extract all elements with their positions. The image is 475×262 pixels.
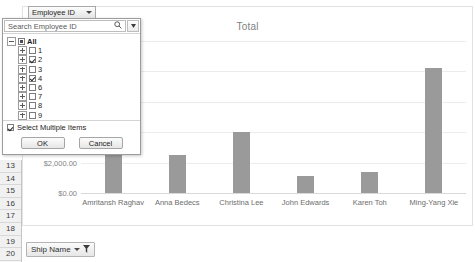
chevron-down-icon	[74, 248, 80, 251]
x-axis-tick-label: Christina Lee	[219, 198, 263, 207]
filter-tree-item[interactable]: 7	[7, 92, 140, 101]
funnel-icon	[83, 245, 90, 255]
y-axis-tick-label: $2,000.00	[44, 158, 77, 167]
row-header-gutter: 1314151617181920	[0, 160, 22, 262]
expand-icon[interactable]	[18, 74, 27, 83]
filter-item-checkbox[interactable]	[29, 84, 36, 91]
filter-item-checkbox[interactable]	[29, 56, 36, 63]
row-header[interactable]: 18	[0, 223, 21, 236]
filter-item-label: 3	[38, 65, 42, 74]
bar-slot: Anna Bedecs	[145, 41, 209, 193]
row-header[interactable]: 15	[0, 185, 21, 198]
x-axis-tick-label: John Edwards	[282, 198, 330, 207]
bar-slot: Christina Lee	[209, 41, 273, 193]
chart-bar[interactable]	[297, 176, 314, 193]
search-dropdown-button[interactable]	[127, 20, 139, 32]
row-header[interactable]: 16	[0, 198, 21, 211]
filter-item-checkbox[interactable]	[29, 47, 36, 54]
spreadsheet-window: Total $0.00$2,000.00$4,000.00$6,000.00 A…	[0, 0, 475, 262]
expand-icon[interactable]	[18, 111, 27, 120]
filter-tree-item[interactable]: 8	[7, 101, 140, 110]
magnifier-icon[interactable]	[114, 21, 122, 31]
filter-item-checkbox[interactable]	[29, 93, 36, 100]
x-axis-tick-label: Ming-Yang Xie	[410, 198, 459, 207]
bar-slot: Ming-Yang Xie	[402, 41, 466, 193]
filter-item-checkbox[interactable]	[29, 112, 36, 119]
chart-bar[interactable]	[233, 132, 250, 193]
row-header[interactable]: 13	[0, 160, 21, 173]
x-axis-tick-label: Karen Toh	[353, 198, 387, 207]
filter-item-checkbox[interactable]	[18, 38, 25, 45]
select-multiple-label: Select Multiple Items	[17, 123, 86, 132]
expand-icon[interactable]	[18, 92, 27, 101]
row-header[interactable]: 20	[0, 248, 21, 261]
search-input-placeholder: Search Employee ID	[8, 22, 77, 31]
bar-slot: John Edwards	[274, 41, 338, 193]
filter-tree-item[interactable]: 2	[7, 55, 140, 64]
row-header[interactable]: 19	[0, 236, 21, 249]
expand-icon[interactable]	[18, 65, 27, 74]
column-header-label: Employee ID	[32, 8, 75, 17]
filter-item-label: 4	[38, 74, 42, 83]
filter-item-label: All	[27, 37, 37, 46]
select-multiple-checkbox[interactable]	[7, 124, 14, 131]
chart-bar[interactable]	[361, 172, 378, 193]
filter-tree-item[interactable]: 4	[7, 74, 140, 83]
collapse-icon[interactable]	[7, 37, 16, 46]
filter-tree-item[interactable]: 1	[7, 46, 140, 55]
x-axis-tick-label: Amritansh Raghav	[82, 198, 144, 207]
dialog-button-row: OK Cancel	[3, 134, 140, 154]
filter-search-row: Search Employee ID	[3, 19, 140, 34]
row-header[interactable]: 17	[0, 210, 21, 223]
filter-item-label: 7	[38, 92, 42, 101]
filter-item-label: 2	[38, 55, 42, 64]
filter-item-label: 1	[38, 46, 42, 55]
search-input[interactable]: Search Employee ID	[4, 20, 126, 32]
chart-bar[interactable]	[169, 155, 186, 193]
chart-bar[interactable]	[425, 68, 442, 193]
filter-item-label: 6	[38, 83, 42, 92]
filter-tree-item[interactable]: 3	[7, 65, 140, 74]
ship-name-filter-cell[interactable]: Ship Name	[26, 242, 95, 257]
employee-id-column-header[interactable]: Employee ID	[28, 6, 96, 18]
filter-tree-item[interactable]: 6	[7, 83, 140, 92]
x-axis-tick-label: Anna Bedecs	[155, 198, 200, 207]
cancel-button[interactable]: Cancel	[79, 137, 123, 149]
filter-tree-item[interactable]: 9	[7, 111, 140, 120]
filter-value-tree[interactable]: All12346789	[3, 34, 140, 120]
y-axis-tick-label: $0.00	[58, 189, 77, 198]
expand-icon[interactable]	[18, 101, 27, 110]
filter-item-checkbox[interactable]	[29, 75, 36, 82]
row-header[interactable]: 14	[0, 173, 21, 186]
filter-tree-item[interactable]: All	[7, 37, 140, 46]
ship-name-label: Ship Name	[31, 245, 71, 254]
ok-button[interactable]: OK	[21, 137, 65, 149]
expand-icon[interactable]	[18, 55, 27, 64]
chevron-down-icon[interactable]	[86, 11, 92, 14]
expand-icon[interactable]	[18, 83, 27, 92]
filter-item-checkbox[interactable]	[29, 66, 36, 73]
filter-item-label: 8	[38, 101, 42, 110]
filter-item-label: 9	[38, 111, 42, 120]
gridline	[81, 193, 466, 194]
expand-icon[interactable]	[18, 46, 27, 55]
select-multiple-items-row[interactable]: Select Multiple Items	[3, 120, 140, 134]
bar-slot: Karen Toh	[338, 41, 402, 193]
filter-item-checkbox[interactable]	[29, 102, 36, 109]
employee-id-filter-popup: Search Employee ID All12346789 Select Mu…	[2, 18, 141, 155]
